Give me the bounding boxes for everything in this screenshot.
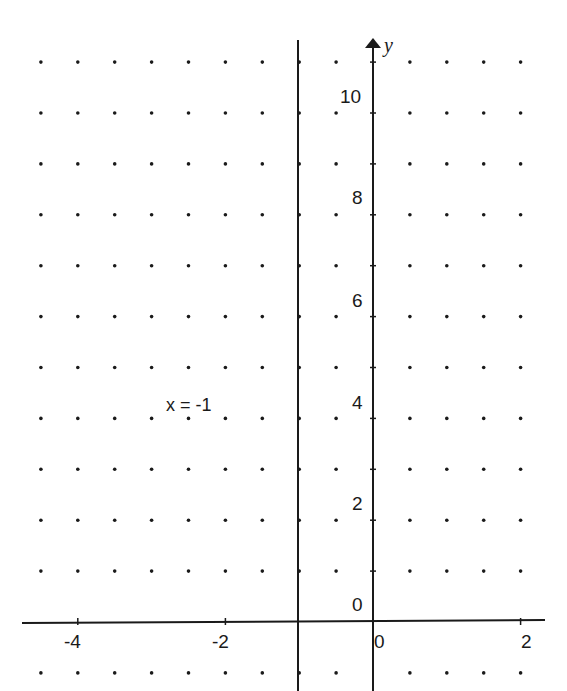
grid-dot [224,671,228,675]
grid-dot [76,213,80,217]
grid-dot [261,366,265,370]
grid-dot [261,671,265,675]
grid-dot [261,468,265,472]
y-axis-label: y [384,34,393,57]
grid-dot [408,213,412,217]
grid-dot [187,417,191,421]
grid-dot [39,162,43,166]
grid-dot [39,60,43,64]
grid-dot [408,569,412,573]
grid-dot [76,468,80,472]
grid-dot [113,162,117,166]
grid-dot [445,60,449,64]
grid-dot [76,315,80,319]
grid-dot [334,111,338,115]
grid-dot [482,213,486,217]
x-tick-label-2: 2 [521,631,532,653]
grid-dot [224,518,228,522]
grid-dot [519,518,523,522]
y-tick-label-4: 4 [352,392,363,414]
grid-dot [519,366,523,370]
grid-dot [519,671,523,675]
grid-dot [261,111,265,115]
grid-dot [334,518,338,522]
grid-dot [113,315,117,319]
grid-dot [445,417,449,421]
grid-dot [113,111,117,115]
grid-dot [113,671,117,675]
grid-dot [39,671,43,675]
grid-dot [519,213,523,217]
grid-dot [482,366,486,370]
grid-dot [482,264,486,268]
grid-dot [445,518,449,522]
grid-dot [334,162,338,166]
grid-dot [224,468,228,472]
grid-dot [224,60,228,64]
grid-dot [334,468,338,472]
grid-dot [261,417,265,421]
grid-dot [482,162,486,166]
grid-dot [445,671,449,675]
grid-dot [334,671,338,675]
grid-dot [261,264,265,268]
grid-dot [39,417,43,421]
grid-dot [187,162,191,166]
grid-dot [187,111,191,115]
grid-dot [150,162,154,166]
grid-dot [334,366,338,370]
grid-dot [519,60,523,64]
grid-dot [187,213,191,217]
y-tick-label-0: 0 [352,594,363,616]
grid-dot [39,366,43,370]
coordinate-plane [0,0,567,691]
grid-dot [519,417,523,421]
y-tick-label-6: 6 [352,290,363,312]
grid-dot [150,468,154,472]
grid-dot [39,264,43,268]
grid-dot [113,417,117,421]
grid-dot [39,111,43,115]
grid-dot [224,213,228,217]
grid-dot [408,162,412,166]
grid-dot [150,569,154,573]
grid-dot [408,468,412,472]
y-tick-label-2: 2 [352,493,363,515]
grid-dot [150,213,154,217]
grid-dot [334,417,338,421]
line-equation-label: x = -1 [166,395,212,416]
grid-dot [113,366,117,370]
grid-dot [76,518,80,522]
grid-dot [408,417,412,421]
grid-dot [113,468,117,472]
grid-dot [150,315,154,319]
grid-dot [76,671,80,675]
grid-dot [482,417,486,421]
grid-dot [334,569,338,573]
grid-dot [519,264,523,268]
grid-dot [445,366,449,370]
grid-dot [408,671,412,675]
grid-dot [261,213,265,217]
grid-dot [150,417,154,421]
grid-dot [150,111,154,115]
y-axis-arrow-icon [365,38,381,48]
grid-dot [519,468,523,472]
grid-dot [408,264,412,268]
grid-dot [445,569,449,573]
grid-dot [482,518,486,522]
grid-dot [187,518,191,522]
grid-dot [187,315,191,319]
grid-dot [408,366,412,370]
grid-dot [76,111,80,115]
grid-dot [445,315,449,319]
grid-dot [76,264,80,268]
grid-dot [187,569,191,573]
grid-dot [39,315,43,319]
grid-dot [224,417,228,421]
grid-dot [187,671,191,675]
grid-dot [76,569,80,573]
grid-dot [39,468,43,472]
grid-dot [408,315,412,319]
grid-dot [482,60,486,64]
